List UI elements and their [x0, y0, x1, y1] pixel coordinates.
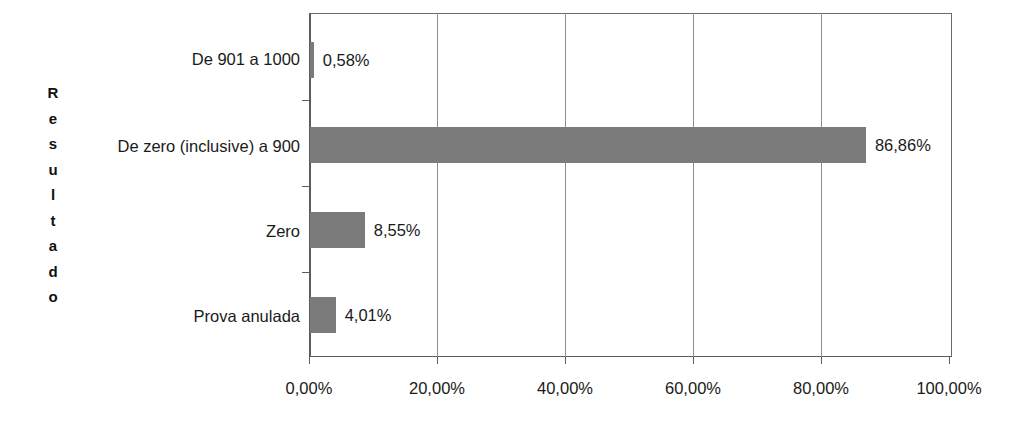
data-label-de-zero-inclusive-a-900: 86,86%	[875, 135, 931, 155]
y-axis-title-letter: l	[36, 182, 70, 208]
x-tick-100	[949, 357, 950, 364]
x-axis-tick-label-0: 0,00%	[249, 379, 369, 398]
category-label-de-901-a-1000: De 901 a 1000	[0, 49, 300, 69]
bar-prova-anulada	[310, 297, 336, 333]
plot-top-border	[309, 13, 952, 14]
x-axis-tick-label-60: 60,00%	[633, 379, 753, 398]
category-label-zero: Zero	[0, 221, 300, 241]
y-tick-2	[302, 186, 309, 187]
y-tick-3	[302, 272, 309, 273]
plot-right-border	[951, 13, 953, 357]
bar-de-901-a-1000	[310, 42, 314, 78]
gridline-60	[693, 13, 694, 357]
bar-de-zero-inclusive-a-900	[310, 127, 866, 163]
y-axis-title-letter: e	[36, 106, 70, 132]
gridline-80	[821, 13, 822, 357]
x-axis-line	[309, 356, 952, 358]
y-axis-title: R e s u l t a d o	[36, 80, 70, 310]
x-axis-tick-label-40: 40,00%	[505, 379, 625, 398]
plot-area: 0,58% 86,86% 8,55% 4,01% 0,00% 20,00% 40…	[309, 13, 952, 357]
x-axis-tick-label-80: 80,00%	[761, 379, 881, 398]
x-tick-40	[565, 357, 566, 364]
x-axis-tick-label-100: 100,00%	[889, 379, 1009, 398]
category-label-prova-anulada: Prova anulada	[0, 306, 300, 326]
gridline-20	[437, 13, 438, 357]
data-label-de-901-a-1000: 0,58%	[323, 50, 370, 70]
data-label-zero: 8,55%	[374, 220, 421, 240]
x-tick-80	[821, 357, 822, 364]
x-axis-tick-label-20: 20,00%	[377, 379, 497, 398]
category-label-de-zero-inclusive-a-900: De zero (inclusive) a 900	[0, 136, 300, 156]
y-axis-title-letter: u	[36, 157, 70, 183]
bar-chart: R e s u l t a d o De 901 a 1000 De zero …	[0, 0, 1032, 433]
y-axis-title-letter: R	[36, 80, 70, 106]
gridline-40	[565, 13, 566, 357]
x-tick-0	[309, 357, 310, 364]
x-tick-20	[437, 357, 438, 364]
x-tick-60	[693, 357, 694, 364]
data-label-prova-anulada: 4,01%	[345, 305, 392, 325]
y-tick-1	[302, 100, 309, 101]
y-axis-title-letter: d	[36, 259, 70, 285]
bar-zero	[310, 212, 365, 248]
